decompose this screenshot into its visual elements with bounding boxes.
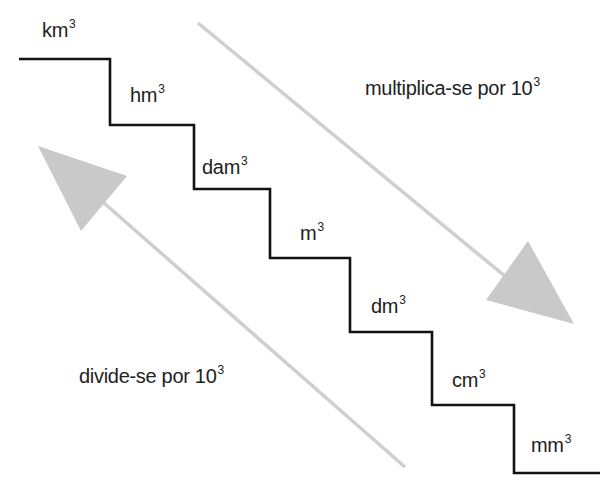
multiply-label: multiplica-se por 103 bbox=[365, 78, 540, 98]
step-label-m3: m3 bbox=[300, 223, 324, 243]
step-label-dam3: dam3 bbox=[202, 157, 247, 177]
step-label-km3: km3 bbox=[42, 20, 75, 40]
step-label-cm3: cm3 bbox=[452, 370, 485, 390]
unit-staircase-diagram: km3 hm3 dam3 m3 dm3 cm3 mm3 multiplica-s… bbox=[0, 0, 605, 490]
step-label-dm3: dm3 bbox=[371, 296, 406, 316]
step-label-mm3: mm3 bbox=[531, 435, 571, 455]
diagram-graphics bbox=[0, 0, 605, 490]
multiply-arrow-icon bbox=[198, 23, 574, 324]
step-label-hm3: hm3 bbox=[130, 85, 165, 105]
divide-label: divide-se por 103 bbox=[79, 366, 224, 386]
